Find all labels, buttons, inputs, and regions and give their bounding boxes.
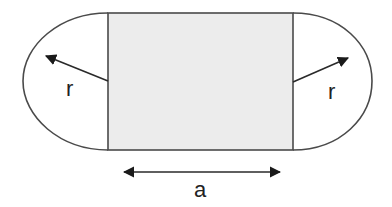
stadium-diagram: r r a	[0, 0, 392, 207]
width-label: a	[194, 177, 207, 202]
shaded-rectangle	[108, 13, 293, 150]
right-radius-label: r	[328, 79, 335, 104]
left-radius-label: r	[66, 76, 73, 101]
